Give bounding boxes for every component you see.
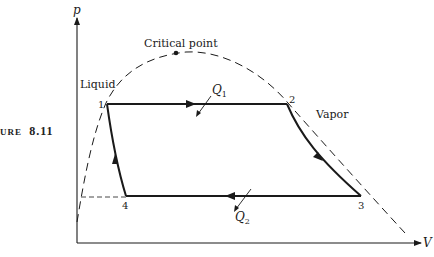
figure-caption-word: URE <box>0 127 22 137</box>
q2-label: Q2 <box>235 210 250 226</box>
state-3-label: 3 <box>358 200 364 211</box>
q1-label: Q1 <box>212 83 227 99</box>
critical-point-dot <box>174 51 179 56</box>
y-axis-label: p <box>73 3 81 17</box>
state-4-label: 4 <box>122 200 128 211</box>
figure-caption-number: 8.11 <box>29 124 53 138</box>
vapor-label: Vapor <box>315 108 349 121</box>
axes: p V <box>73 3 433 250</box>
state-1-label: 1 <box>98 99 104 110</box>
critical-point-label: Critical point <box>144 37 218 50</box>
heat-q1: Q1 <box>196 83 227 117</box>
x-axis-label: V <box>423 236 433 250</box>
arrow-3-4-icon <box>225 192 235 200</box>
heat-q2: Q2 <box>234 189 251 226</box>
state-2-label: 2 <box>289 94 295 105</box>
process-4-1 <box>107 104 126 196</box>
pv-diagram: URE 8.11 p V Q1 <box>0 0 434 257</box>
figure-caption: URE 8.11 <box>0 124 54 138</box>
arrow-1-2-icon <box>186 100 196 108</box>
q2-arrow-line <box>236 189 251 209</box>
liquid-label: Liquid <box>80 78 116 91</box>
